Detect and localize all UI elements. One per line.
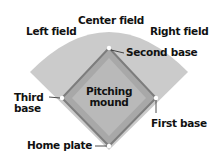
second-base-marker (107, 46, 111, 50)
label-right-field: Right field (150, 26, 208, 37)
home-plate-marker (107, 144, 111, 148)
label-home-plate: Home plate (27, 140, 92, 151)
label-pitching-mound-line2: mound (86, 97, 132, 108)
label-center-field: Center field (78, 15, 144, 26)
label-first-base: First base (151, 118, 207, 129)
third-base-marker (60, 96, 64, 100)
label-third-base: Third base (14, 92, 43, 114)
label-pitching-mound: Pitching mound (86, 86, 132, 108)
label-second-base: Second base (126, 47, 197, 58)
label-left-field: Left field (26, 26, 76, 37)
label-third-base-line2: base (14, 103, 43, 114)
first-base-marker (154, 96, 158, 100)
